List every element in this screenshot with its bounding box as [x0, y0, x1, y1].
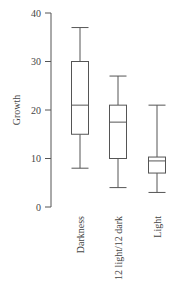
- category-label: Light: [152, 216, 163, 238]
- box-0: [72, 28, 89, 169]
- y-tick-label: 10: [31, 153, 41, 164]
- iqr-box: [110, 105, 127, 158]
- category-labels: Darkness12 light/12 darkLight: [75, 216, 163, 280]
- iqr-box: [149, 157, 166, 173]
- y-tick-label: 20: [31, 105, 41, 116]
- y-axis: 010203040: [31, 8, 51, 213]
- category-label: 12 light/12 dark: [113, 216, 124, 280]
- category-label: Darkness: [75, 216, 86, 253]
- iqr-box: [72, 62, 89, 135]
- y-axis-title: Growth: [11, 95, 22, 126]
- box-2: [149, 105, 166, 192]
- boxes: [72, 28, 166, 193]
- y-tick-label: 30: [31, 56, 41, 67]
- y-tick-label: 40: [31, 8, 41, 19]
- box-plot-chart: 010203040 Growth Darkness12 light/12 dar…: [0, 0, 180, 284]
- y-tick-label: 0: [36, 202, 41, 213]
- box-1: [110, 76, 127, 188]
